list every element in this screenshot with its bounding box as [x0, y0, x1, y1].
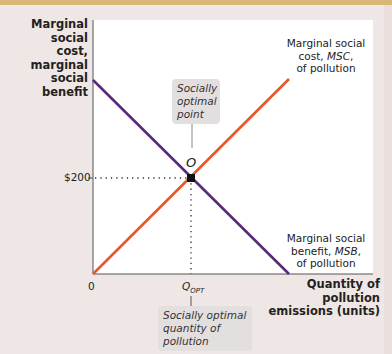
msc-label-line: Marginal social	[278, 37, 374, 50]
callout-line: quantity of	[163, 322, 247, 335]
msb-label: Marginal social benefit, MSB, of polluti…	[278, 232, 374, 270]
x-axis-title-line: emissions (units)	[269, 305, 380, 319]
x-axis-title-line: Quantity of	[269, 278, 380, 292]
msc-label-line: of pollution	[278, 62, 374, 75]
msc-label-line: cost, MSC,	[278, 50, 374, 63]
callout-socially-optimal-quantity: Socially optimal quantity of pollution	[158, 306, 252, 351]
callout-line: point	[177, 108, 215, 121]
x-tick-sub: OPT	[190, 287, 204, 295]
y-axis-title-line: cost, marginal	[2, 45, 88, 72]
y-axis-title-line: social benefit	[2, 72, 88, 99]
x-axis-title-line: pollution	[269, 292, 380, 306]
y-axis-title-line: Marginal social	[2, 18, 88, 45]
y-tick-label-200: $200	[64, 171, 91, 183]
y-axis-title: Marginal social cost, marginal social be…	[2, 18, 88, 99]
callout-line: Socially optimal	[163, 309, 247, 322]
callout-socially-optimal-point: Socially optimal point	[172, 79, 220, 124]
x-tick-label-qopt: QOPT	[182, 280, 204, 295]
optimal-point-marker	[187, 174, 195, 182]
callout-line: Socially	[177, 82, 215, 95]
msb-label-line: benefit, MSB,	[278, 245, 374, 258]
msc-label: Marginal social cost, MSC, of pollution	[278, 37, 374, 75]
msb-label-line: of pollution	[278, 257, 374, 270]
callout-line: pollution	[163, 335, 247, 348]
callout-line: optimal	[177, 95, 215, 108]
msb-label-line: Marginal social	[278, 232, 374, 245]
x-axis-title: Quantity of pollution emissions (units)	[269, 278, 380, 319]
optimal-point-label: O	[186, 155, 196, 170]
origin-label: 0	[88, 280, 95, 292]
